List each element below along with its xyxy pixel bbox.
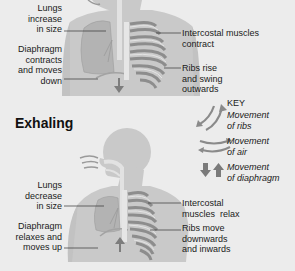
key-line: of ribs (227, 121, 269, 132)
exhaled-air-arrows-icon (80, 156, 98, 168)
label-line: relaxes and (4, 232, 62, 243)
label-line: Diaphragm (4, 221, 62, 232)
label-line: Lungs (8, 3, 62, 14)
key-line: Movement (227, 162, 280, 173)
label-line: Diaphragm (8, 44, 62, 55)
label-line: Ribs move (182, 223, 282, 234)
key-item-air: Movement of air (227, 136, 269, 157)
label-line: Ribs rise (182, 63, 282, 74)
inhaling-figure (62, 0, 200, 96)
label-intercostal-relax: Intercostal muscles relax (182, 198, 282, 219)
key-item-ribs: Movement of ribs (227, 110, 269, 131)
label-line: contracts (8, 55, 62, 66)
key-line: Movement (227, 110, 269, 121)
label-ribs-move: Ribs move downwards and inwards (182, 223, 282, 255)
breathing-diagram: Lungs increase in size Diaphragm contrac… (0, 0, 295, 271)
label-line: muscles relax (182, 209, 282, 220)
key-item-diaphragm: Movement of diaphragm (227, 162, 280, 183)
label-line: in size (8, 201, 62, 212)
label-line: and moves (8, 65, 62, 76)
label-diaphragm-contracts: Diaphragm contracts and moves down (8, 44, 62, 86)
label-lungs-decrease: Lungs decrease in size (8, 180, 62, 212)
label-line: increase (8, 14, 62, 25)
label-line: and inwards (182, 244, 282, 255)
label-line: outwards (182, 84, 282, 95)
label-line: moves up (4, 242, 62, 253)
label-line: down (8, 76, 62, 87)
exhaling-figure (64, 128, 189, 262)
label-line: contract (182, 39, 292, 50)
label-line: Lungs (8, 180, 62, 191)
label-line: Intercostal (182, 198, 282, 209)
label-line: decrease (8, 191, 62, 202)
key-title: KEY (227, 98, 245, 108)
label-diaphragm-relaxes: Diaphragm relaxes and moves up (4, 221, 62, 253)
curved-arrows-air-icon (200, 141, 230, 151)
label-intercostal-contract: Intercostal muscles contract (182, 28, 292, 49)
exhaling-heading: Exhaling (15, 115, 73, 131)
label-ribs-rise: Ribs rise and swing outwards (182, 63, 282, 95)
key-line: of air (227, 147, 269, 158)
key-line: Movement (227, 136, 269, 147)
label-line: downwards (182, 234, 282, 245)
up-down-arrows-diaphragm-icon (200, 163, 224, 177)
curved-arrows-ribs-icon (200, 106, 222, 130)
label-line: in size (8, 24, 62, 35)
label-line: Intercostal muscles (182, 28, 292, 39)
key-line: of diaphragm (227, 173, 280, 184)
label-lungs-increase: Lungs increase in size (8, 3, 62, 35)
label-line: and swing (182, 74, 282, 85)
